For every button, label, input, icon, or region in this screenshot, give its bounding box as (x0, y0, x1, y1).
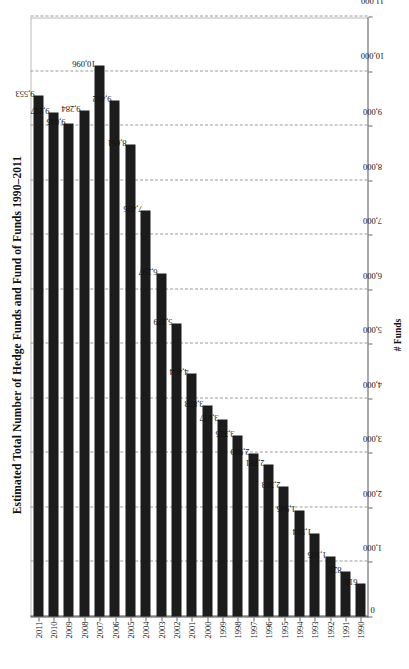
value-tick-mark (368, 452, 372, 453)
value-tick-label: 4,000 (362, 379, 381, 389)
chart-figure: Estimated Total Number of Hedge Funds an… (0, 0, 409, 669)
value-tick-mark (368, 398, 372, 399)
category-tick-mark (253, 617, 254, 621)
value-tick-mark (368, 343, 372, 344)
bar (109, 100, 119, 616)
value-tick-mark (368, 71, 372, 72)
value-tick-label: 7,000 (362, 216, 381, 226)
category-tick-label: 2005 (125, 621, 135, 647)
bar-value-label: 3,325 (215, 428, 234, 438)
category-tick-mark (207, 617, 208, 621)
bar (248, 453, 258, 616)
category-tick-mark (284, 617, 285, 621)
value-tick-label: 2,000 (362, 488, 381, 498)
bar-value-label: 3,873 (184, 398, 203, 408)
bar-value-label: 7,436 (122, 203, 141, 213)
bars-layer: 9,5539,2379,0459,28410,0969,4628,6617,43… (30, 17, 367, 616)
category-tick-label: 1997 (248, 621, 258, 647)
bar (33, 95, 43, 616)
bar (63, 123, 73, 616)
bar-value-label: 610 (344, 576, 357, 586)
category-tick-mark (68, 617, 69, 621)
category-tick-mark (53, 617, 54, 621)
value-tick-label: 5,000 (362, 325, 381, 335)
gridline (30, 15, 367, 16)
value-tick-label: 0 (370, 605, 374, 615)
bar-value-label: 10,096 (72, 58, 95, 68)
category-tick-label: 2011 (33, 621, 43, 647)
category-tick-mark (99, 617, 100, 621)
value-tick-mark (368, 125, 372, 126)
bar (217, 419, 227, 616)
category-tick-label: 1994 (294, 621, 304, 647)
bar-value-label: 1,514 (291, 526, 310, 536)
value-tick-mark (368, 180, 372, 181)
value-tick-mark (368, 616, 372, 617)
bar (232, 435, 242, 616)
category-tick-label: 1993 (309, 621, 319, 647)
value-tick-label: 9,000 (362, 107, 381, 117)
bar-value-label: 5,379 (153, 316, 172, 326)
category-tick-mark (237, 617, 238, 621)
category-tick-mark (145, 617, 146, 621)
value-tick-label: 10,000 (360, 50, 383, 60)
category-tick-label: 2003 (156, 621, 166, 647)
category-tick-mark (268, 617, 269, 621)
category-tick-label: 2008 (79, 621, 89, 647)
category-tick-label: 1998 (232, 621, 242, 647)
category-tick-label: 2002 (171, 621, 181, 647)
bar-value-label: 2,990 (230, 446, 249, 456)
category-tick-mark (161, 617, 162, 621)
category-tick-mark (38, 617, 39, 621)
category-tick-mark (84, 617, 85, 621)
value-tick-label: 8,000 (362, 161, 381, 171)
value-tick-label: 11,000 (360, 0, 383, 5)
category-tick-mark (130, 617, 131, 621)
value-tick-label: 3,000 (362, 434, 381, 444)
category-tick-label: 2004 (140, 621, 150, 647)
category-tick-label: 2009 (63, 621, 73, 647)
value-tick-mark (368, 16, 372, 17)
category-tick-label: 1996 (263, 621, 273, 647)
bar (186, 373, 196, 616)
chart-canvas: Estimated Total Number of Hedge Funds an… (0, 0, 409, 669)
bar-value-label: 9,553 (15, 88, 34, 98)
bar-value-label: 9,284 (61, 103, 80, 113)
value-axis-title: # Funds (392, 0, 402, 669)
plot-area: 9,5539,2379,0459,28410,0969,4628,6617,43… (30, 17, 368, 617)
bar-value-label: 9,462 (92, 93, 111, 103)
bar-value-label: 9,237 (30, 105, 49, 115)
category-tick-mark (314, 617, 315, 621)
category-tick-label: 2001 (186, 621, 196, 647)
category-tick-mark (360, 617, 361, 621)
value-tick-mark (368, 507, 372, 508)
category-tick-label: 1992 (325, 621, 335, 647)
bar-value-label: 9,045 (46, 116, 65, 126)
category-tick-mark (330, 617, 331, 621)
value-tick-mark (368, 234, 372, 235)
category-tick-label: 1991 (340, 621, 350, 647)
bar-value-label: 821 (329, 564, 342, 574)
category-tick-mark (299, 617, 300, 621)
bar (125, 144, 135, 616)
bar (79, 110, 89, 616)
bar-value-label: 1,945 (276, 503, 295, 513)
category-tick-label: 2006 (110, 621, 120, 647)
value-tick-mark (368, 561, 372, 562)
bar (355, 583, 365, 616)
bar (94, 65, 104, 616)
bar-value-label: 1,105 (307, 549, 326, 559)
bar-value-label: 2,383 (261, 479, 280, 489)
category-tick-mark (345, 617, 346, 621)
bar-value-label: 8,661 (107, 137, 126, 147)
value-tick-label: 1,000 (362, 543, 381, 553)
bar-value-label: 3,617 (199, 412, 218, 422)
bar (202, 405, 212, 616)
category-tick-label: 1995 (279, 621, 289, 647)
category-tick-label: 1990 (355, 621, 365, 647)
category-tick-mark (191, 617, 192, 621)
category-tick-label: 2007 (94, 621, 104, 647)
category-tick-mark (176, 617, 177, 621)
bar-value-label: 6,297 (138, 266, 157, 276)
value-tick-label: 6,000 (362, 270, 381, 280)
